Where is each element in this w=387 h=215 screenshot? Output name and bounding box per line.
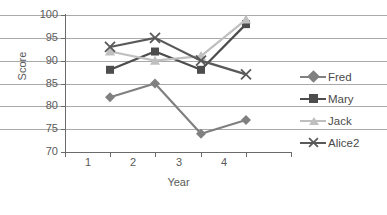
legend-item-alice2[interactable]: Alice2: [300, 132, 384, 154]
data-point-mary-3: [197, 66, 205, 74]
line-chart: 100 95 90 85 80 75 70 1 2 3 4 Year Score: [0, 0, 387, 215]
series-line-mary: [110, 24, 246, 70]
legend-marker-diamond-icon: [300, 70, 326, 84]
legend-item-fred[interactable]: Fred: [300, 66, 384, 88]
legend-label-mary: Mary: [328, 93, 354, 105]
legend-marker-triangle-icon: [300, 114, 326, 128]
series-fred: [105, 79, 251, 139]
legend: Fred Mary Jack Alice2: [300, 66, 384, 154]
series-jack: [105, 15, 251, 65]
data-point-fred-4: [241, 115, 251, 125]
series-mary: [106, 20, 250, 74]
legend-marker-square-icon: [300, 92, 326, 106]
series-line-fred: [110, 84, 246, 134]
data-point-jack-4: [241, 15, 251, 24]
series-line-jack: [110, 20, 246, 61]
legend-label-alice2: Alice2: [328, 137, 359, 149]
data-point-mary-1: [106, 66, 114, 74]
legend-label-fred: Fred: [328, 71, 352, 83]
legend-item-mary[interactable]: Mary: [300, 88, 384, 110]
legend-marker-x-icon: [300, 136, 326, 150]
data-point-fred-1: [105, 92, 115, 102]
legend-label-jack: Jack: [328, 115, 352, 127]
legend-item-jack[interactable]: Jack: [300, 110, 384, 132]
data-point-mary-2: [151, 48, 159, 56]
